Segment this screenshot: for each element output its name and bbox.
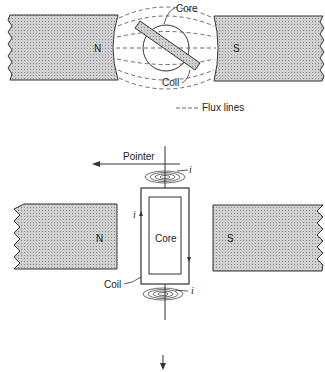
south-label-bottom: S bbox=[227, 233, 234, 244]
bottom-figure: Pointer i Core i N S Coil bbox=[14, 146, 323, 370]
current-label-top: i bbox=[189, 164, 192, 175]
legend-label: Flux lines bbox=[202, 102, 244, 113]
moving-coil-meter-diagram: N S Core Coil Flux lines Pointer i bbox=[0, 0, 325, 372]
north-label-top: N bbox=[94, 43, 101, 54]
current-arrow-bottom bbox=[175, 290, 188, 291]
coil-bar-top bbox=[135, 21, 200, 70]
core-label-top: Core bbox=[176, 3, 198, 14]
down-arrowhead bbox=[160, 363, 166, 370]
pointer-label: Pointer bbox=[123, 151, 155, 162]
core-label-bottom: Core bbox=[155, 233, 177, 244]
north-label-bottom: N bbox=[96, 233, 103, 244]
coil-leader-top bbox=[182, 70, 190, 83]
coil-label-bottom: Coil bbox=[104, 279, 121, 290]
current-label-bottom: i bbox=[191, 285, 194, 296]
south-pole-top bbox=[214, 16, 324, 81]
coil-label-top: Coil bbox=[162, 77, 179, 88]
top-figure: N S Core Coil Flux lines bbox=[8, 3, 324, 113]
coil-leader-bottom bbox=[124, 277, 141, 284]
current-arrow-top bbox=[177, 170, 188, 171]
south-label-top: S bbox=[233, 43, 240, 54]
pointer-arrowhead bbox=[92, 161, 100, 167]
current-label-left: i bbox=[133, 209, 136, 220]
north-pole-top bbox=[8, 15, 118, 80]
